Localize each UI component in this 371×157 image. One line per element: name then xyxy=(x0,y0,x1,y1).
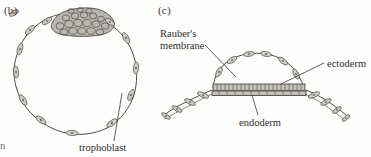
label-raubers-membrane-line2: membrane xyxy=(160,40,204,51)
ectoderm-leader-line xyxy=(281,63,324,84)
ectoderm-band xyxy=(213,84,305,91)
panel-b-artwork xyxy=(0,0,371,157)
label-raubers-membrane-line1: Rauber's xyxy=(160,28,196,39)
cropped-edge-text-fragment: n xyxy=(0,140,5,151)
label-raubers-membrane: Rauber's membrane xyxy=(160,28,230,51)
label-endoderm: endoderm xyxy=(239,117,281,129)
label-ectoderm: ectoderm xyxy=(327,58,366,70)
raubers-membrane-cells xyxy=(214,51,300,80)
embryology-figure: (b) (c) trophoblast Rauber's membrane ec… xyxy=(0,0,371,157)
endoderm-leader-line xyxy=(252,95,258,115)
label-trophoblast: trophoblast xyxy=(79,142,126,154)
panel-letter-c: (c) xyxy=(158,4,171,16)
left-wing-cells xyxy=(161,90,210,120)
panel-letter-b: (b) xyxy=(4,4,17,16)
right-wing-cells xyxy=(308,90,351,122)
